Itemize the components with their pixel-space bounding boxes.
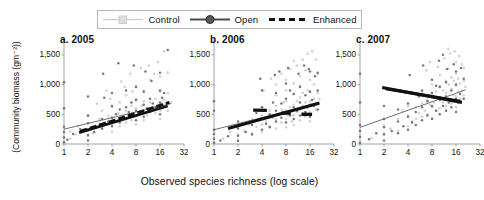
line-square-marker-icon [102, 14, 144, 25]
svg-text:1: 1 [62, 148, 67, 157]
svg-text:32: 32 [179, 148, 188, 157]
panel-2006: b. 2006 05001,0001,50012481632 [188, 32, 338, 167]
panel-title-b: b. 2006 [210, 34, 245, 45]
svg-text:16: 16 [451, 148, 461, 157]
svg-text:4: 4 [260, 148, 265, 157]
svg-text:8: 8 [430, 148, 435, 157]
svg-text:16: 16 [155, 148, 165, 157]
svg-text:8: 8 [284, 148, 289, 157]
svg-text:2: 2 [86, 148, 91, 157]
panel-2007: c. 2007 05001,0001,50012481632 [334, 32, 484, 167]
svg-text:1,000: 1,000 [190, 80, 211, 89]
line-circle-marker-icon [189, 14, 231, 25]
svg-text:1,500: 1,500 [40, 50, 61, 59]
svg-text:32: 32 [475, 148, 484, 157]
svg-text:0: 0 [205, 140, 210, 149]
svg-text:16: 16 [305, 148, 315, 157]
x-axis-label: Observed species richness (log scale) [0, 176, 459, 187]
svg-text:1,000: 1,000 [336, 80, 357, 89]
legend: Control Open Enhanced [97, 10, 362, 29]
svg-text:4: 4 [406, 148, 411, 157]
dashed-line-icon [267, 14, 309, 25]
svg-text:1,500: 1,500 [336, 50, 357, 59]
legend-label-enhanced: Enhanced [313, 15, 357, 25]
legend-label-control: Control [148, 15, 179, 25]
panel-title-c: c. 2007 [356, 34, 390, 45]
svg-text:500: 500 [196, 110, 210, 119]
svg-text:500: 500 [342, 110, 356, 119]
svg-text:0: 0 [351, 140, 356, 149]
legend-item-control: Control [102, 14, 179, 25]
svg-text:2: 2 [236, 148, 241, 157]
svg-text:0: 0 [55, 140, 60, 149]
panel-title-a: a. 2005 [60, 34, 94, 45]
y-axis-label: (Community biomass (gm⁻²)) [11, 30, 21, 164]
legend-item-open: Open [189, 14, 259, 25]
svg-text:8: 8 [134, 148, 139, 157]
scatter-plot-2005: 05001,0001,50012481632 [38, 32, 188, 167]
svg-text:1,000: 1,000 [40, 80, 61, 89]
svg-text:500: 500 [46, 110, 60, 119]
svg-text:1: 1 [212, 148, 217, 157]
panel-2005: a. 2005 05001,0001,50012481632 [38, 32, 188, 167]
legend-item-enhanced: Enhanced [267, 14, 357, 25]
scatter-plot-2007: 05001,0001,50012481632 [334, 32, 484, 167]
svg-text:4: 4 [110, 148, 115, 157]
scatter-plot-2006: 05001,0001,50012481632 [188, 32, 338, 167]
svg-text:1,500: 1,500 [190, 50, 211, 59]
svg-text:1: 1 [358, 148, 363, 157]
svg-text:2: 2 [382, 148, 387, 157]
legend-label-open: Open [235, 15, 259, 25]
